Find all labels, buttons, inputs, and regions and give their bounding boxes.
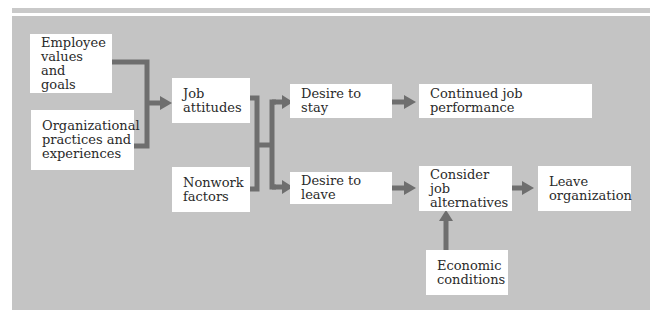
node-nonwork-factors: Nonwork factors <box>172 167 250 212</box>
node-employee-values: Employee values and goals <box>30 34 112 93</box>
node-label: Organizational practices and experiences <box>42 119 140 161</box>
node-label: Desire to stay <box>301 87 381 115</box>
node-label: Leave organization <box>549 175 632 203</box>
node-economic-conditions: Economic conditions <box>426 250 508 295</box>
node-label: Nonwork factors <box>183 176 244 204</box>
node-org-practices: Organizational practices and experiences <box>31 110 134 170</box>
node-label: Desire to leave <box>301 174 381 202</box>
node-consider-alternatives: Consider job alternatives <box>419 166 512 211</box>
node-label: Continued job performance <box>430 87 581 115</box>
node-desire-leave: Desire to leave <box>290 172 392 204</box>
node-label: Employee values and goals <box>41 36 106 92</box>
node-desire-stay: Desire to stay <box>290 84 392 118</box>
node-leave-organization: Leave organization <box>538 166 631 211</box>
node-label: Consider job alternatives <box>430 168 508 210</box>
node-label: Job attitudes <box>183 87 242 115</box>
node-job-attitudes: Job attitudes <box>172 78 250 123</box>
node-label: Economic conditions <box>437 259 505 287</box>
node-continued-performance: Continued job performance <box>419 84 592 118</box>
